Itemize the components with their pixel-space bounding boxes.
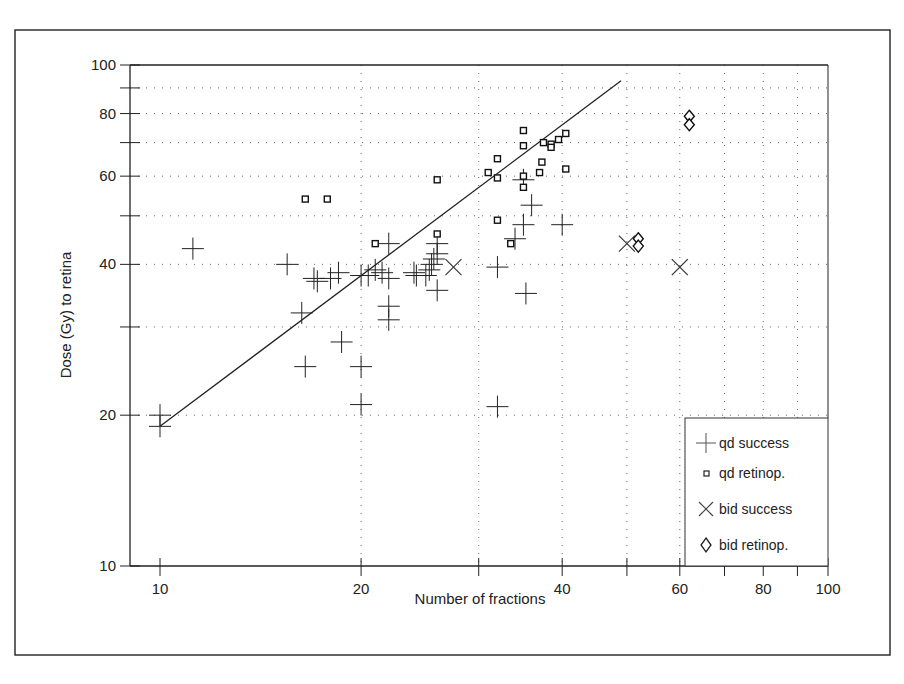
qd-retinop-point (540, 140, 546, 146)
x-tick-label: 40 (554, 580, 571, 597)
qd-retinop-point (372, 241, 378, 247)
qd-retinop-point (563, 166, 569, 172)
qd-retinop-point (324, 196, 330, 202)
legend-label: bid success (719, 501, 792, 517)
qd-retinop-point (508, 241, 514, 247)
qd-retinop-point (563, 130, 569, 136)
y-tick-label: 20 (99, 406, 116, 423)
y-axis-title: Dose (Gy) to retina (57, 251, 74, 378)
qd-retinop-point (520, 143, 526, 149)
qd-retinop-point (537, 170, 543, 176)
legend-label: qd success (719, 435, 789, 451)
qd-retinop-point (434, 231, 440, 237)
x-axis-title: Number of fractions (415, 590, 546, 607)
qd-retinop-point (494, 217, 500, 223)
x-tick-label: 100 (815, 580, 840, 597)
qd-retinop-point (485, 170, 491, 176)
y-tick-label: 60 (99, 167, 116, 184)
qd-retinop-point (494, 156, 500, 162)
y-tick-label: 40 (99, 255, 116, 272)
qd-retinop-point (548, 144, 554, 150)
dose-fraction-scatter-chart: 1020406080100 1020406080100 qd success q… (0, 0, 904, 684)
y-tick-label: 100 (91, 56, 116, 73)
qd-retinop-point (302, 196, 308, 202)
qd-retinop-point (539, 159, 545, 165)
x-tick-label: 10 (152, 580, 169, 597)
x-tick-label: 80 (755, 580, 772, 597)
legend-label: qd retinop. (719, 465, 785, 481)
legend-label: bid retinop. (719, 537, 788, 553)
qd-retinop-point (520, 184, 526, 190)
x-tick-label: 20 (353, 580, 370, 597)
legend: qd success qd retinop. bid success bid r… (685, 418, 828, 566)
qd-retinop-point (556, 137, 562, 143)
qd-retinop-point (434, 177, 440, 183)
qd-retinop-point (494, 175, 500, 181)
qd-retinop-point (520, 173, 526, 179)
x-tick-label: 60 (671, 580, 688, 597)
y-tick-label: 80 (99, 105, 116, 122)
qd-retinop-point (520, 128, 526, 134)
y-tick-label: 10 (99, 557, 116, 574)
